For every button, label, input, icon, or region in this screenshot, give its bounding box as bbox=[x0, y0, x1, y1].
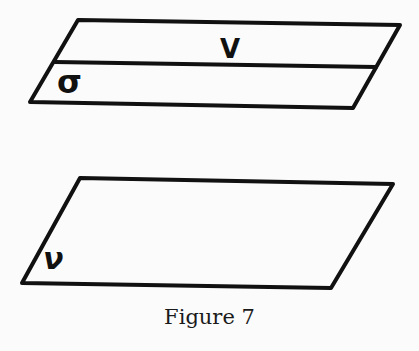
label-sigma: σ bbox=[57, 66, 82, 98]
label-v: V bbox=[220, 36, 240, 62]
figure-caption: Figure 7 bbox=[0, 305, 419, 329]
label-nu: ν bbox=[43, 244, 63, 274]
bottom-parallelogram bbox=[22, 178, 393, 288]
top-dividing-line bbox=[55, 62, 376, 67]
figure-diagram bbox=[0, 0, 419, 351]
